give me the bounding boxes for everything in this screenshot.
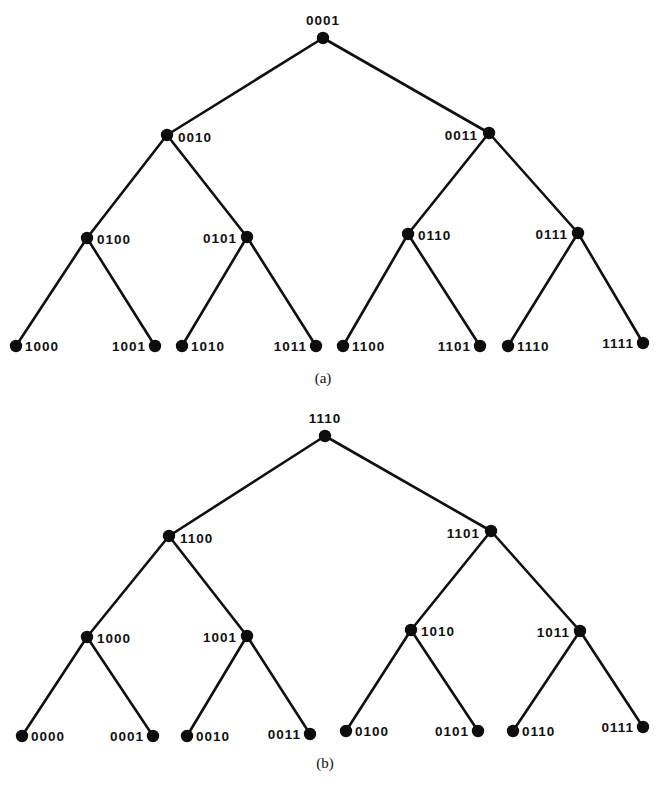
- figure-root: 0001001000110100010101100111100010011010…: [0, 0, 656, 785]
- tree-node-label: 1110: [309, 412, 342, 426]
- tree-node-dot[interactable]: [181, 730, 193, 742]
- tree-node-dot[interactable]: [310, 340, 322, 352]
- tree-node-label: 1010: [191, 340, 225, 354]
- tree-node-dot[interactable]: [340, 725, 352, 737]
- tree-node-dot[interactable]: [637, 337, 649, 349]
- tree-node-dot[interactable]: [81, 232, 93, 244]
- tree-edge: [167, 135, 247, 237]
- tree-node-dot[interactable]: [405, 624, 417, 636]
- tree-node-dot[interactable]: [337, 340, 349, 352]
- tree-node-label: 0000: [31, 730, 65, 744]
- tree-node-dot[interactable]: [485, 525, 497, 537]
- tree-node-dot[interactable]: [474, 340, 486, 352]
- tree-node-dot[interactable]: [483, 127, 495, 139]
- tree-edge: [22, 637, 87, 736]
- tree-node-label: 1000: [97, 632, 131, 646]
- tree-node-label: 1011: [274, 340, 307, 354]
- tree-node-dot[interactable]: [176, 340, 188, 352]
- tree-node-label: 1100: [180, 532, 213, 546]
- tree-node-dot[interactable]: [572, 227, 584, 239]
- tree-edge: [508, 233, 578, 346]
- tree-edge: [580, 631, 643, 727]
- tree-node-label: 0100: [97, 233, 131, 247]
- tree-edge: [411, 630, 478, 731]
- tree-node-dot[interactable]: [147, 730, 159, 742]
- tree-edge: [411, 531, 491, 630]
- tree-node-dot[interactable]: [574, 625, 586, 637]
- tree-node-dot[interactable]: [507, 725, 519, 737]
- tree-node-label: 0001: [110, 730, 144, 744]
- tree-node-label: 0010: [178, 131, 212, 145]
- tree-edge: [343, 234, 408, 346]
- tree-node-label: 0100: [355, 725, 389, 739]
- tree-node-label: 1110: [517, 340, 550, 354]
- tree-edge: [491, 531, 580, 631]
- tree-node-dot[interactable]: [402, 228, 414, 240]
- tree-node-label: 1100: [352, 340, 385, 354]
- tree-edge: [489, 133, 578, 233]
- tree-edge: [182, 237, 247, 346]
- tree-diagram-canvas: [0, 0, 656, 785]
- tree-node-label: 0110: [522, 725, 555, 739]
- tree-node-dot[interactable]: [472, 725, 484, 737]
- tree-node-label: 0010: [196, 730, 230, 744]
- tree-edge: [408, 133, 489, 234]
- tree-node-dot[interactable]: [149, 340, 161, 352]
- tree-node-dot[interactable]: [241, 630, 253, 642]
- tree-node-dot[interactable]: [502, 340, 514, 352]
- panel-caption: (b): [316, 755, 334, 772]
- tree-node-dot[interactable]: [163, 530, 175, 542]
- tree-node-dot[interactable]: [304, 728, 316, 740]
- tree-edge: [87, 637, 153, 736]
- tree-node-dot[interactable]: [16, 730, 28, 742]
- tree-node-label: 1111: [602, 337, 634, 351]
- tree-node-label: 1000: [25, 340, 59, 354]
- tree-edge: [578, 233, 643, 343]
- tree-edge: [513, 631, 580, 731]
- tree-edge: [169, 436, 325, 536]
- tree-edge: [167, 38, 323, 135]
- tree-node-label: 0110: [418, 229, 451, 243]
- tree-node-dot[interactable]: [161, 129, 173, 141]
- tree-node-label: 0111: [535, 228, 568, 242]
- tree-node-label: 1001: [203, 631, 237, 645]
- tree-node-label: 0011: [268, 728, 301, 742]
- tree-node-label: 0101: [435, 725, 469, 739]
- tree-node-label: 1010: [421, 625, 455, 639]
- tree-edge: [325, 436, 491, 531]
- tree-edge: [169, 536, 247, 636]
- tree-edge: [187, 636, 247, 736]
- tree-edge: [247, 636, 310, 734]
- tree-node-dot[interactable]: [10, 340, 22, 352]
- tree-node-label: 0011: [445, 129, 478, 143]
- tree-node-dot[interactable]: [317, 32, 329, 44]
- tree-node-dot[interactable]: [637, 721, 649, 733]
- tree-edge: [87, 238, 155, 346]
- tree-edge: [247, 237, 316, 346]
- tree-edge: [87, 536, 169, 637]
- tree-edge: [16, 238, 87, 346]
- tree-node-label: 0001: [306, 14, 340, 28]
- tree-edge: [323, 38, 489, 133]
- tree-node-label: 1011: [537, 626, 570, 640]
- tree-node-label: 0111: [601, 721, 634, 735]
- tree-node-label: 1101: [447, 527, 480, 541]
- tree-node-dot[interactable]: [241, 231, 253, 243]
- tree-edge: [346, 630, 411, 731]
- tree-node-label: 0101: [203, 232, 237, 246]
- tree-node-label: 1101: [438, 340, 471, 354]
- tree-edge: [408, 234, 480, 346]
- tree-node-dot[interactable]: [81, 631, 93, 643]
- tree-edge: [87, 135, 167, 238]
- panel-caption: (a): [315, 370, 332, 387]
- tree-node-dot[interactable]: [319, 430, 331, 442]
- tree-node-label: 1001: [112, 340, 146, 354]
